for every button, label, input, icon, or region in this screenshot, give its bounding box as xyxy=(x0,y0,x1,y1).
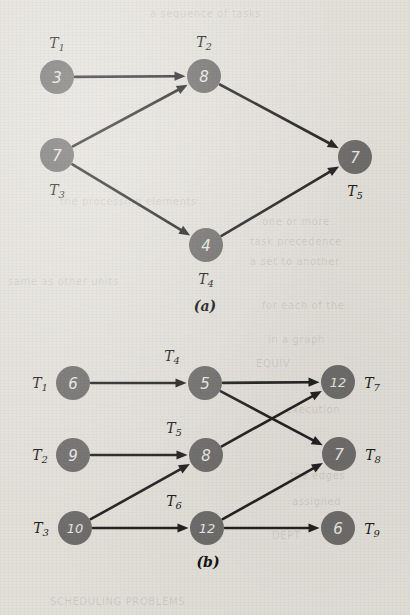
task-graph-svg: 3T18T27T34T47T5(a) 6T19T210T35T48T512T61… xyxy=(0,0,410,615)
task-label-b-t4: T4 xyxy=(164,348,180,366)
task-label-b-t3: T3 xyxy=(33,520,49,538)
svg-text:T5: T5 xyxy=(347,183,363,201)
node-value: 8 xyxy=(199,68,209,86)
svg-text:T4: T4 xyxy=(164,348,180,366)
task-label-b-t8: T8 xyxy=(365,447,381,465)
edge-a-e4 xyxy=(220,85,339,149)
node-value: 12 xyxy=(199,521,216,536)
node-value: 10 xyxy=(67,521,84,536)
svg-text:T8: T8 xyxy=(365,447,381,465)
edge-b-e3 xyxy=(91,464,190,519)
edge-a-e1 xyxy=(75,72,186,81)
edge-b-e8 xyxy=(223,463,323,519)
task-graph-figures: 3T18T27T34T47T5(a) 6T19T210T35T48T512T61… xyxy=(0,0,410,615)
node-a-t3[interactable]: 7 xyxy=(40,138,74,172)
node-b-t8[interactable]: 7 xyxy=(322,437,356,471)
node-value: 9 xyxy=(68,447,78,465)
task-label-b-t6: T6 xyxy=(166,493,182,511)
svg-text:(a): (a) xyxy=(194,298,216,314)
edge-b-e1 xyxy=(91,378,187,387)
node-value: 6 xyxy=(333,520,343,538)
node-b-t6[interactable]: 12 xyxy=(190,511,224,545)
edge-a-e5 xyxy=(221,166,339,235)
edge-a-e2 xyxy=(73,85,188,147)
edge-a-e3 xyxy=(72,164,190,235)
task-label-b-t9: T9 xyxy=(364,521,380,539)
svg-text:T1: T1 xyxy=(32,375,48,393)
node-value: 5 xyxy=(200,375,210,393)
svg-text:T3: T3 xyxy=(49,182,65,200)
task-label-a-t2: T2 xyxy=(196,34,212,52)
node-a-t4[interactable]: 4 xyxy=(189,228,223,262)
edge-b-e2 xyxy=(91,450,188,459)
node-value: 7 xyxy=(52,147,62,165)
node-value: 3 xyxy=(52,69,62,87)
node-a-t1[interactable]: 3 xyxy=(40,60,74,94)
figure-a-group: 3T18T27T34T47T5(a) xyxy=(40,34,372,314)
node-b-t4[interactable]: 5 xyxy=(188,366,222,400)
task-label-b-t1: T1 xyxy=(32,375,48,393)
svg-text:T3: T3 xyxy=(33,520,49,538)
svg-text:T5: T5 xyxy=(166,420,182,438)
node-value: 8 xyxy=(201,447,211,465)
task-label-a-t1: T1 xyxy=(49,35,65,53)
task-label-a-t5: T5 xyxy=(347,183,363,201)
node-value: 7 xyxy=(350,149,360,167)
node-a-t2[interactable]: 8 xyxy=(187,59,221,93)
figure-b-group: 6T19T210T35T48T512T612T77T86T9(b) xyxy=(32,348,381,570)
svg-text:T6: T6 xyxy=(166,493,182,511)
node-b-t9[interactable]: 6 xyxy=(321,511,355,545)
node-b-t7[interactable]: 12 xyxy=(321,365,355,399)
edge-b-e9 xyxy=(225,523,320,532)
svg-text:T2: T2 xyxy=(196,34,212,52)
node-b-t3[interactable]: 10 xyxy=(58,511,92,545)
node-value: 6 xyxy=(68,375,78,393)
svg-text:T9: T9 xyxy=(364,521,380,539)
node-b-t1[interactable]: 6 xyxy=(56,366,90,400)
figure-caption-figure-b: (b) xyxy=(196,554,219,570)
svg-text:T7: T7 xyxy=(364,375,380,393)
node-value: 7 xyxy=(334,446,344,464)
task-label-b-t5: T5 xyxy=(166,420,182,438)
figure-caption-figure-a: (a) xyxy=(194,298,216,314)
edge-b-e5 xyxy=(223,378,320,387)
node-value: 4 xyxy=(201,237,211,255)
node-b-t5[interactable]: 8 xyxy=(189,438,223,472)
node-a-t5[interactable]: 7 xyxy=(338,140,372,174)
svg-text:T1: T1 xyxy=(49,35,65,53)
svg-text:(b): (b) xyxy=(196,554,219,570)
task-label-a-t3: T3 xyxy=(49,182,65,200)
task-label-b-t7: T7 xyxy=(364,375,380,393)
node-b-t2[interactable]: 9 xyxy=(56,438,90,472)
task-label-a-t4: T4 xyxy=(198,271,214,289)
svg-text:T2: T2 xyxy=(32,447,48,465)
svg-text:T4: T4 xyxy=(198,271,214,289)
task-label-b-t2: T2 xyxy=(32,447,48,465)
edge-b-e4 xyxy=(93,523,189,532)
node-value: 12 xyxy=(330,375,347,390)
